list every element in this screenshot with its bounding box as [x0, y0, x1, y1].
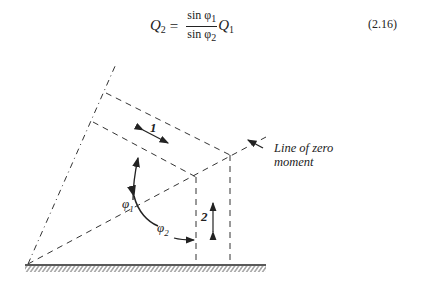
- dash-dot-axis-line: [28, 64, 116, 264]
- direction-2-label: 2: [201, 209, 208, 225]
- zero-moment-leader-arrow-icon: [248, 140, 263, 148]
- phi2-label: φ2: [157, 220, 169, 238]
- phi1-label: φ1: [122, 196, 134, 214]
- direction-1-label: 1: [150, 120, 157, 136]
- phi1-arc-arrow-icon: [133, 158, 138, 200]
- zero-moment-line-label: Line of zero moment: [274, 141, 333, 169]
- moment-diagram: [0, 0, 432, 294]
- ground: [25, 265, 266, 272]
- phi2-arc-arrow-icon: [174, 238, 194, 240]
- upper-dashed-line: [106, 93, 230, 155]
